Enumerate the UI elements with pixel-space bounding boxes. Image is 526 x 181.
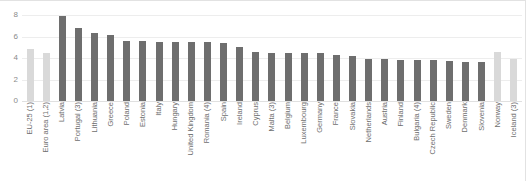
label-slot: Spain [216,102,232,180]
bar [381,59,388,101]
x-axis-category-labels: EU-25 (1)Euro area (1,2)LatviaPortugal (… [22,102,522,180]
bar [397,60,404,101]
x-axis-label: Netherlands [365,102,373,142]
bar-slot [54,15,70,101]
x-axis-label: Poland [123,102,131,125]
x-axis-label: Italy [155,102,163,116]
label-slot: Ireland [232,102,248,180]
label-slot: Austria [377,102,393,180]
label-slot: Iceland (3) [506,102,522,180]
x-axis-label: Finland [397,102,405,127]
x-axis-label: Iceland (3) [510,102,518,137]
bar-slot [474,15,490,101]
bar [252,52,259,101]
y-tick-label-6: 6 [14,33,18,41]
label-slot: Poland [119,102,135,180]
bar [365,59,372,101]
bar-slot [345,15,361,101]
bar-slot [70,15,86,101]
bar-slot [248,15,264,101]
x-axis-label: Denmark [462,102,470,132]
bar [510,59,517,101]
bar-slot [425,15,441,101]
bar-slot [264,15,280,101]
y-tick-label-0: 0 [14,97,18,105]
bar [43,53,50,101]
label-slot: Bulgaria (4) [409,102,425,180]
bar [478,62,485,101]
bar [204,42,211,101]
label-slot: United Kingdom [183,102,199,180]
label-slot: Belgium [280,102,296,180]
bars-layer [22,15,522,101]
bar-slot [216,15,232,101]
bar [446,61,453,101]
bar-slot [328,15,344,101]
label-slot: Lithuania [87,102,103,180]
bar [301,53,308,101]
x-axis-label: Ireland [236,102,244,125]
bar [462,62,469,101]
bar-slot [296,15,312,101]
bar-slot [232,15,248,101]
bar [268,53,275,101]
bar [220,43,227,101]
x-axis-label: Hungary [171,102,179,130]
x-axis-label: Luxembourg [300,102,308,144]
bar [285,53,292,101]
x-axis-label: Malta (3) [268,102,276,132]
label-slot: Sweden [441,102,457,180]
bar-slot [506,15,522,101]
bar-slot [457,15,473,101]
x-axis-label: Norway [494,102,502,127]
x-axis-label: Belgium [284,102,292,129]
bar [414,60,421,101]
bar [139,41,146,101]
label-slot: Norway [490,102,506,180]
bar-slot [441,15,457,101]
label-slot: Cyprus [248,102,264,180]
bar [494,52,501,101]
label-slot: Slovenia [474,102,490,180]
bar-slot [38,15,54,101]
label-slot: Luxembourg [296,102,312,180]
bar-slot [22,15,38,101]
bar-slot [135,15,151,101]
bar [188,42,195,101]
label-slot: France [328,102,344,180]
x-axis-label: Portugal (3) [75,102,83,141]
label-slot: Italy [151,102,167,180]
x-axis-label: Sweden [446,102,454,129]
x-axis-label: Euro area (1,2) [42,102,50,152]
label-slot: Czech Republic [425,102,441,180]
x-axis-label: Slovakia [349,102,357,130]
y-tick-label-8: 8 [14,11,18,19]
bar [91,33,98,101]
x-axis-label: Spain [220,102,228,121]
x-axis-label: Greece [107,102,115,127]
x-axis-label: EU-25 (1) [26,102,34,135]
bar [123,41,130,101]
bar-slot [119,15,135,101]
label-slot: Germany [312,102,328,180]
bar-slot [377,15,393,101]
bar-chart: 02468 EU-25 (1)Euro area (1,2)LatviaPort… [0,0,526,181]
label-slot: Greece [103,102,119,180]
bar-slot [183,15,199,101]
bar-slot [490,15,506,101]
x-axis-label: Bulgaria (4) [413,102,421,141]
x-axis-label: Estonia [139,102,147,127]
bar-slot [167,15,183,101]
label-slot: Slovakia [345,102,361,180]
bar [349,56,356,101]
x-axis-label: Germany [317,102,325,133]
bar-slot [393,15,409,101]
bar-slot [87,15,103,101]
bar [236,47,243,101]
x-axis-label: France [333,102,341,125]
bar-slot [361,15,377,101]
y-axis-tick-labels: 02468 [0,15,18,101]
bar [75,28,82,101]
label-slot: Latvia [54,102,70,180]
label-slot: Euro area (1,2) [38,102,54,180]
